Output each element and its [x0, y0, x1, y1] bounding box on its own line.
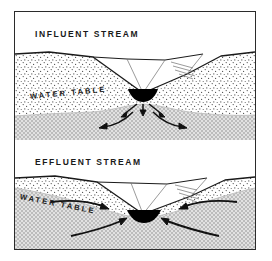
figure-canvas: INFLUENT STREAM WATER TABLE: [0, 0, 272, 261]
caption-influent-stream: INFLUENT STREAM: [35, 29, 139, 39]
panel-influent-stream: INFLUENT STREAM WATER TABLE: [15, 12, 255, 141]
panel-effluent-stream: EFFLUENT STREAM WATER TABLE: [15, 140, 255, 249]
caption-effluent-stream: EFFLUENT STREAM: [35, 157, 142, 167]
figure-frame: INFLUENT STREAM WATER TABLE: [14, 11, 256, 250]
